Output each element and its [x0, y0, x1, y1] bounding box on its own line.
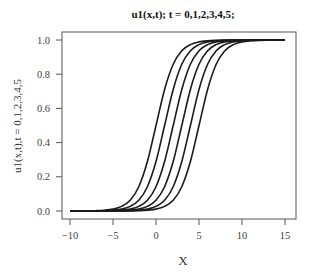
- curve-t3: [70, 40, 285, 211]
- y-tick-label: 0.8: [37, 69, 50, 80]
- line-chart: u1(x,t); t = 0,1,2,3,4,5; 0.00.20.40.60.…: [0, 0, 310, 272]
- y-tick-label: 0.6: [37, 103, 50, 114]
- curve-t1: [70, 40, 285, 211]
- y-tick-label: 0.2: [37, 171, 50, 182]
- y-axis-label: u1(x,t),t = 0,1,2,3,4,5: [11, 79, 24, 173]
- x-axis-label: X: [178, 253, 188, 268]
- curve-t2: [70, 40, 285, 211]
- x-tick-label: 15: [280, 230, 291, 241]
- y-tick-label: 0.4: [37, 137, 51, 148]
- y-axis: 0.00.20.40.60.81.0: [37, 35, 62, 217]
- x-tick-label: 5: [196, 230, 201, 241]
- curve-t5: [70, 40, 285, 211]
- curve-t4: [70, 40, 285, 211]
- x-axis: −10−5051015: [62, 219, 290, 241]
- y-tick-label: 0.0: [37, 206, 50, 217]
- x-tick-label: 0: [153, 230, 158, 241]
- chart-title: u1(x,t); t = 0,1,2,3,4,5;: [131, 8, 234, 21]
- curve-t0: [70, 40, 285, 211]
- curves: [70, 40, 285, 211]
- x-tick-label: 10: [237, 230, 248, 241]
- x-tick-label: −10: [62, 230, 78, 241]
- x-tick-label: −5: [107, 230, 118, 241]
- y-tick-label: 1.0: [37, 35, 50, 46]
